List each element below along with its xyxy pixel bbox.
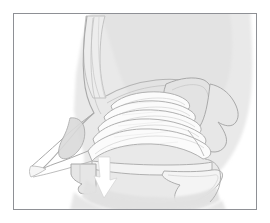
alar-cartilage: [59, 118, 85, 159]
illustration-frame: [13, 13, 257, 210]
nasal-cavity-sagittal-illustration: [14, 14, 256, 209]
screenshot-root: [0, 0, 270, 223]
